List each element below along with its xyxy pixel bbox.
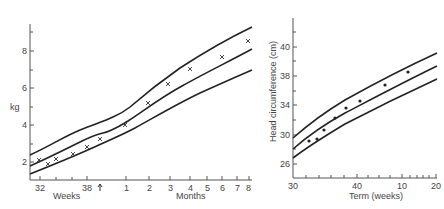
hc-x-label: Term (weeks) <box>349 191 403 201</box>
weeks-label: Weeks <box>53 191 81 201</box>
weight-y-ticks: 8 6 4 2 <box>22 32 34 167</box>
hc-x-tick-20: 20 <box>431 181 441 191</box>
y-tick-6: 6 <box>22 83 27 93</box>
hc-y-tick-26: 26 <box>280 159 290 169</box>
weight-median <box>30 49 252 166</box>
hc-upper-centile <box>293 53 437 138</box>
x-tick-6m: 6 <box>220 183 225 193</box>
hc-x-ticks: 30 40 10 20 <box>288 174 441 191</box>
y-tick-8: 8 <box>22 46 27 56</box>
x-tick-8m: 8 <box>246 183 251 193</box>
hc-y-tick-34: 34 <box>280 100 290 110</box>
hc-median <box>293 66 437 149</box>
x-tick-38w: 38 <box>82 183 92 193</box>
hc-y-tick-30: 30 <box>280 130 290 140</box>
y-tick-4: 4 <box>22 120 27 130</box>
hc-x-tick-40: 40 <box>352 181 362 191</box>
hc-y-tick-38: 38 <box>280 71 290 81</box>
term-arrow-icon <box>98 184 102 191</box>
weight-lower-centile <box>30 70 252 174</box>
weight-chart: 8 6 4 2 kg 32 38 1 2 3 4 5 <box>10 24 252 201</box>
hc-y-label: Head circumference (cm) <box>268 41 278 142</box>
months-label: Months <box>176 191 206 201</box>
y-tick-2: 2 <box>22 157 27 167</box>
x-tick-2m: 2 <box>147 183 152 193</box>
growth-charts: 8 6 4 2 kg 32 38 1 2 3 4 5 <box>0 0 444 209</box>
weight-y-label: kg <box>10 102 20 112</box>
x-tick-3m: 3 <box>168 183 173 193</box>
x-tick-32w: 32 <box>35 183 45 193</box>
weight-axes <box>30 24 252 180</box>
x-tick-5m: 5 <box>205 183 210 193</box>
head-circumference-chart: 40 38 34 30 26 Head circumference (cm) 3… <box>268 18 441 201</box>
x-tick-7m: 7 <box>235 183 240 193</box>
hc-axes <box>293 18 437 178</box>
hc-y-tick-40: 40 <box>280 42 290 52</box>
hc-x-tick-10: 10 <box>397 181 407 191</box>
hc-lower-centile <box>293 79 437 158</box>
hc-x-tick-30: 30 <box>288 181 298 191</box>
weight-upper-centile <box>30 27 252 155</box>
x-tick-1m: 1 <box>124 183 129 193</box>
